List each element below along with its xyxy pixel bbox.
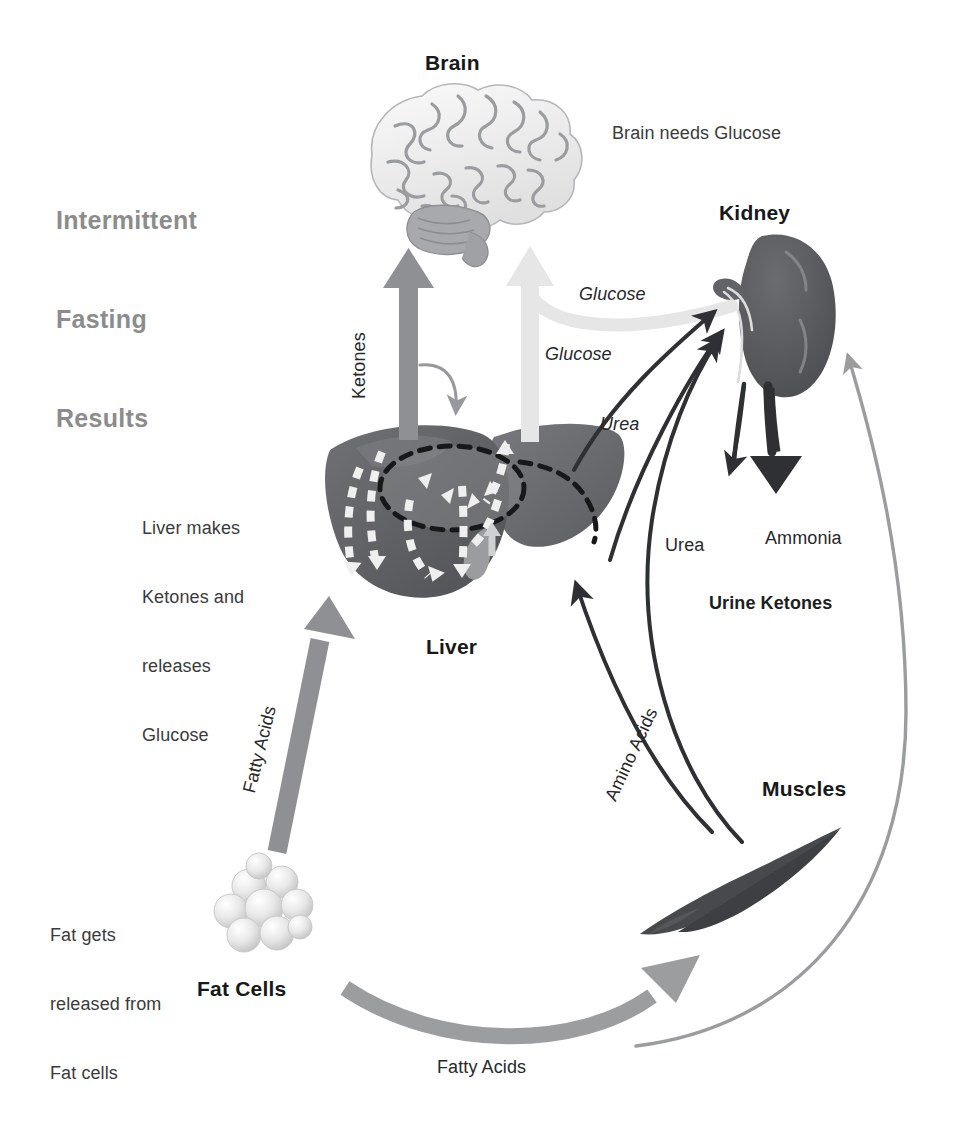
- annotation-liver-line-2: Ketones and: [142, 586, 244, 609]
- flow-label-ketones: Ketones: [348, 332, 371, 399]
- arrow-ketones-hook: [420, 365, 456, 410]
- annotation-liver: Liver makes Ketones and releases Glucose: [142, 471, 244, 793]
- annotation-brain-needs-glucose: Brain needs Glucose: [612, 122, 781, 145]
- flow-label-urine-ketones: Urine Ketones: [709, 592, 832, 615]
- flow-label-glucose-mid: Glucose: [545, 343, 612, 366]
- annotation-liver-line-4: Glucose: [142, 724, 244, 747]
- annotation-fat-line-1: Fat gets: [50, 924, 161, 947]
- arrow-ammonia-out: [750, 388, 802, 494]
- arrow-fatty-acids-to-liver: [277, 596, 355, 852]
- arrow-urea-out: [730, 386, 744, 472]
- flow-label-fatty-acids-bottom: Fatty Acids: [437, 1056, 526, 1079]
- arrow-fatty-acids-to-muscles: [345, 955, 700, 1036]
- brain-icon: [371, 84, 582, 267]
- annotation-fat-line-3: Fat cells: [50, 1062, 161, 1085]
- flow-label-glucose-top: Glucose: [579, 283, 646, 306]
- page-title: Intermittent Fasting Results: [56, 138, 197, 501]
- annotation-liver-line-3: releases: [142, 655, 244, 678]
- arrow-ketones-liver-to-brain: [383, 248, 434, 440]
- organ-label-kidney: Kidney: [719, 200, 790, 227]
- flow-label-ammonia: Ammonia: [765, 527, 842, 550]
- page-title-line-3: Results: [56, 402, 197, 435]
- flow-label-urea-out: Urea: [665, 534, 704, 557]
- flow-label-urea-liver: Urea: [600, 413, 639, 436]
- fat-cells-icon: [214, 853, 313, 952]
- annotation-fat-line-2: released from: [50, 993, 161, 1016]
- organ-label-fat-cells: Fat Cells: [197, 976, 286, 1003]
- page-title-line-1: Intermittent: [56, 204, 197, 237]
- liver-icon: [325, 424, 624, 598]
- diagram-canvas: Intermittent Fasting Results Brain Brain…: [0, 0, 968, 1133]
- page-title-line-2: Fasting: [56, 303, 197, 336]
- annotation-liver-line-1: Liver makes: [142, 517, 244, 540]
- organ-label-muscles: Muscles: [762, 776, 846, 803]
- organ-label-brain: Brain: [425, 50, 480, 77]
- annotation-fat-cells: Fat gets released from Fat cells: [50, 878, 161, 1131]
- organ-label-liver: Liver: [426, 634, 477, 661]
- arrow-urea-liver-to-kidney: [610, 332, 722, 560]
